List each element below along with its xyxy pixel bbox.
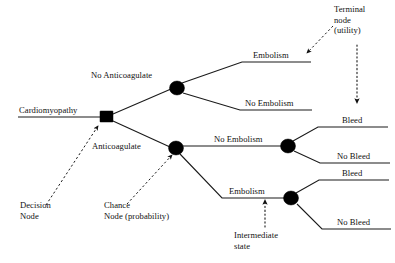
chance-node-lower[interactable] — [169, 141, 184, 155]
label-anticoagulate: Anticoagulate — [92, 141, 141, 152]
edge-bleed-lower — [296, 180, 389, 193]
annotation-decision-node: Decision Node — [20, 200, 51, 221]
decision-tree-canvas — [0, 0, 395, 263]
label-no-anticoagulate: No Anticoagulate — [91, 70, 152, 81]
annotation-chance-node: Chance Node (probability) — [104, 200, 169, 221]
label-no-bleed-lower: No Bleed — [337, 217, 370, 228]
label-bleed-lower: Bleed — [342, 168, 362, 179]
annotation-chance-node-line2: Node (probability) — [104, 211, 169, 222]
annotation-intermediate-state: Intermediate state — [234, 230, 278, 251]
annotation-terminal-node-line3: (utility) — [334, 25, 365, 36]
annotation-intermediate-state-line1: Intermediate — [234, 230, 278, 241]
label-embolism-top: Embolism — [253, 50, 289, 61]
annotation-arrow-chance-node — [127, 155, 172, 204]
edge-bleed-upper — [293, 127, 388, 141]
label-cardiomyopathy: Cardiomyopathy — [19, 105, 77, 116]
annotation-terminal-node-line2: node — [334, 15, 365, 26]
annotation-terminal-node-line1: Terminal — [334, 4, 365, 15]
decision-tree-diagram: Cardiomyopathy No Anticoagulate Anticoag… — [0, 0, 395, 263]
annotation-chance-node-line1: Chance — [104, 200, 169, 211]
annotation-intermediate-state-line2: state — [234, 241, 278, 252]
decision-node-square[interactable] — [100, 111, 113, 122]
annotation-arrow-decision-node — [46, 126, 98, 205]
label-no-embolism-top: No Embolism — [245, 98, 294, 109]
annotation-decision-node-line2: Node — [20, 211, 51, 222]
label-no-bleed-upper: No Bleed — [337, 151, 370, 162]
edge-embolism-top — [182, 62, 311, 83]
annotation-terminal-node: Terminal node (utility) — [334, 4, 365, 36]
label-bleed-upper: Bleed — [342, 115, 362, 126]
edge-no-anticoagulate — [113, 89, 171, 114]
label-embolism-low: Embolism — [229, 186, 265, 197]
annotation-arrow-terminal-node — [307, 26, 333, 53]
annotation-decision-node-line1: Decision — [20, 200, 51, 211]
label-no-embolism-mid: No Embolism — [214, 134, 263, 145]
